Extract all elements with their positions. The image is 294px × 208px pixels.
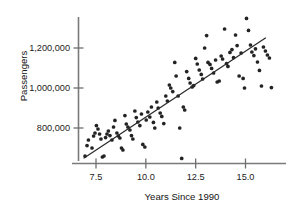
data-point	[155, 100, 159, 104]
data-point	[143, 145, 147, 149]
data-point	[131, 137, 135, 141]
y-tick-label: 1,200,000	[29, 43, 70, 53]
y-axis-group: 800,0001,000,0001,200,000	[29, 17, 83, 161]
data-point	[169, 86, 173, 90]
x-tick-label: 10.0	[137, 172, 155, 182]
data-point	[121, 148, 125, 152]
x-axis-tick-labels: 7.510.012.515.0	[90, 172, 255, 182]
x-tick-label: 7.5	[90, 172, 103, 182]
regression-line	[84, 38, 265, 158]
data-point	[226, 65, 230, 69]
x-tick-label: 12.5	[187, 172, 205, 182]
data-point	[264, 49, 268, 53]
data-point	[214, 58, 218, 62]
y-tick-label: 1,000,000	[29, 83, 70, 93]
data-point	[98, 132, 102, 136]
data-point	[185, 70, 189, 74]
data-point	[234, 33, 238, 37]
data-point	[87, 138, 91, 142]
data-point	[260, 84, 264, 88]
x-tick-label: 15.0	[237, 172, 255, 182]
data-point	[268, 56, 272, 60]
data-point	[210, 67, 214, 71]
data-point	[205, 34, 209, 38]
data-point	[140, 112, 144, 116]
data-point	[95, 124, 99, 128]
data-point	[99, 137, 103, 141]
data-point	[188, 81, 192, 85]
data-point	[90, 146, 94, 150]
data-point	[237, 74, 241, 78]
data-point	[107, 129, 111, 133]
data-point	[235, 44, 239, 48]
data-point	[262, 45, 266, 49]
data-point	[160, 115, 164, 119]
data-point	[197, 68, 201, 72]
data-point	[180, 157, 184, 161]
data-point	[245, 17, 249, 21]
data-point	[256, 60, 260, 64]
data-point	[134, 116, 138, 120]
data-point	[173, 61, 177, 65]
data-point	[223, 27, 227, 31]
data-point	[108, 134, 112, 138]
data-point	[174, 74, 178, 78]
y-axis-tick-labels: 800,0001,000,0001,200,000	[29, 43, 70, 133]
data-point	[171, 90, 175, 94]
data-point	[133, 109, 137, 113]
data-point	[178, 126, 182, 130]
data-point	[241, 77, 245, 81]
data-point	[85, 144, 89, 148]
data-point	[252, 54, 256, 58]
data-point	[152, 121, 156, 125]
data-point	[123, 114, 127, 118]
data-point	[243, 86, 247, 90]
data-point	[96, 127, 100, 131]
data-point	[112, 125, 116, 129]
data-point	[254, 47, 258, 51]
y-tick-label: 800,000	[37, 123, 70, 133]
data-point	[144, 118, 148, 122]
data-point	[162, 122, 166, 126]
data-point	[146, 110, 150, 114]
data-points-group	[83, 17, 273, 161]
x-axis-title: Years Since 1990	[145, 191, 220, 202]
data-point	[164, 94, 168, 98]
data-point	[247, 29, 251, 33]
data-point	[113, 119, 117, 123]
data-point	[270, 86, 274, 90]
data-point	[194, 57, 198, 61]
data-point	[230, 48, 234, 52]
data-point	[187, 77, 191, 81]
data-point	[104, 136, 108, 140]
data-point	[195, 62, 199, 66]
data-point	[203, 46, 207, 50]
scatter-plot-figure: 800,0001,000,0001,200,000 7.510.012.515.…	[0, 0, 294, 208]
data-point	[221, 57, 225, 61]
x-axis-group: 7.510.012.515.0	[72, 159, 286, 183]
y-axis-title: Passengers	[18, 50, 29, 101]
data-point	[150, 105, 154, 109]
data-point	[130, 134, 134, 138]
data-point	[250, 50, 254, 54]
data-point	[258, 69, 262, 73]
plot-canvas: 800,0001,000,0001,200,000 7.510.012.515.…	[0, 0, 294, 208]
data-point	[93, 131, 97, 135]
data-point	[118, 136, 122, 140]
data-point	[208, 63, 212, 67]
data-point	[183, 108, 187, 112]
data-point	[158, 111, 162, 115]
data-point	[138, 124, 142, 128]
data-point	[217, 79, 221, 83]
data-point	[153, 126, 157, 130]
data-point	[199, 73, 203, 77]
data-point	[102, 154, 106, 158]
